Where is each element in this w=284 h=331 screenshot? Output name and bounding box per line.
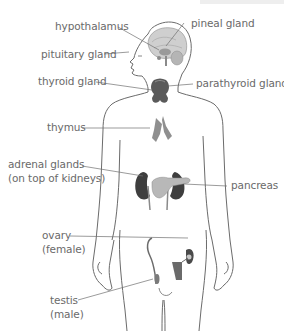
label-hypothalamus: hypothalamus <box>55 20 129 33</box>
label-pancreas: pancreas <box>231 179 278 192</box>
label-adrenal-note: (on top of kidneys) <box>8 172 105 185</box>
label-testis-note: (male) <box>50 308 84 321</box>
thymus <box>152 116 172 142</box>
ovary-uterus <box>172 249 194 280</box>
label-thymus: thymus <box>47 121 86 134</box>
label-pineal-gland: pineal gland <box>191 17 255 30</box>
label-pituitary-gland: pituitary gland <box>41 48 117 61</box>
thyroid-gland <box>151 79 169 103</box>
label-testis: testis <box>50 294 78 307</box>
label-ovary: ovary <box>42 229 71 242</box>
label-parathyroid-glands: parathyroid glands <box>196 77 284 90</box>
endocrine-diagram: hypothalamus pineal gland pituitary glan… <box>0 0 284 331</box>
testis-organ <box>148 238 172 295</box>
body-outline <box>93 22 233 331</box>
label-thyroid-gland: thyroid gland <box>38 75 106 88</box>
label-adrenal-glands: adrenal glands <box>8 158 84 171</box>
label-ovary-note: (female) <box>42 243 86 256</box>
